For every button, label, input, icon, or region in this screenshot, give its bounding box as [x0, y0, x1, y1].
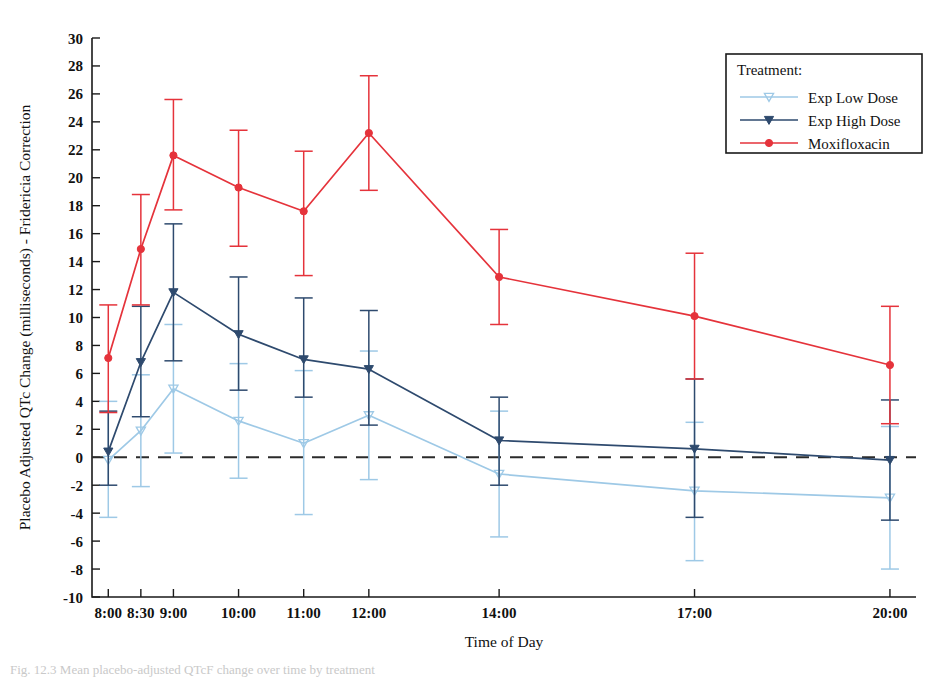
y-tick-label: 22	[68, 142, 83, 158]
data-point-marker[interactable]	[170, 152, 177, 159]
y-tick-label: 28	[68, 58, 83, 74]
data-point-marker[interactable]	[136, 359, 145, 367]
data-point-marker[interactable]	[235, 184, 242, 191]
x-tick-label: 10:00	[221, 605, 256, 621]
x-tick-label: 12:00	[351, 605, 386, 621]
y-tick-label: -10	[63, 590, 83, 606]
x-tick-label: 11:00	[287, 605, 321, 621]
x-axis-title: Time of Day	[465, 633, 544, 650]
y-tick-label: 4	[76, 394, 84, 410]
y-tick-label: 30	[68, 31, 83, 47]
y-tick-label: -4	[71, 506, 84, 522]
y-tick-label: 26	[68, 86, 84, 102]
y-tick-label: 10	[68, 310, 83, 326]
x-tick-label: 9:00	[160, 605, 188, 621]
y-tick-label: 8	[76, 338, 84, 354]
data-point-marker[interactable]	[300, 208, 307, 215]
y-tick-label: -8	[71, 562, 84, 578]
data-point-marker[interactable]	[765, 139, 772, 146]
chart-canvas: -10-8-6-4-20246810121416182022242628308:…	[0, 0, 944, 678]
legend-label-exp-high-dose[interactable]: Exp High Dose	[808, 113, 901, 129]
x-tick-label: 17:00	[677, 605, 712, 621]
x-tick-label: 14:00	[482, 605, 517, 621]
y-tick-label: 14	[68, 254, 84, 270]
figure-caption: Fig. 12.3 Mean placebo-adjusted QTcF cha…	[10, 662, 375, 678]
data-point-marker[interactable]	[364, 366, 373, 374]
x-tick-label: 8:30	[127, 605, 155, 621]
legend-label-exp-low-dose[interactable]: Exp Low Dose	[808, 90, 898, 106]
y-tick-label: 16	[68, 226, 84, 242]
data-point-marker[interactable]	[496, 273, 503, 280]
x-tick-label: 20:00	[872, 605, 907, 621]
x-tick-label: 8:00	[95, 605, 123, 621]
legend-title: Treatment:	[737, 62, 802, 78]
data-point-marker[interactable]	[137, 245, 144, 252]
y-tick-label: -2	[71, 478, 84, 494]
legend-label-moxifloxacin[interactable]: Moxifloxacin	[808, 136, 890, 152]
y-tick-label: 0	[76, 450, 84, 466]
data-point-marker[interactable]	[365, 129, 372, 136]
y-tick-label: 2	[76, 422, 84, 438]
y-tick-label: -6	[71, 534, 84, 550]
y-tick-label: 18	[68, 198, 83, 214]
data-point-marker[interactable]	[691, 313, 698, 320]
data-point-marker[interactable]	[169, 289, 178, 297]
y-axis-title: Placebo Adjusted QTc Change (millisecond…	[16, 105, 34, 531]
y-tick-label: 24	[68, 114, 84, 130]
data-point-marker[interactable]	[105, 354, 112, 361]
y-tick-label: 20	[68, 170, 83, 186]
data-point-marker[interactable]	[886, 361, 893, 368]
y-tick-label: 6	[76, 366, 84, 382]
data-point-marker[interactable]	[104, 448, 113, 456]
figure-root: -10-8-6-4-20246810121416182022242628308:…	[0, 0, 944, 678]
y-tick-label: 12	[68, 282, 83, 298]
